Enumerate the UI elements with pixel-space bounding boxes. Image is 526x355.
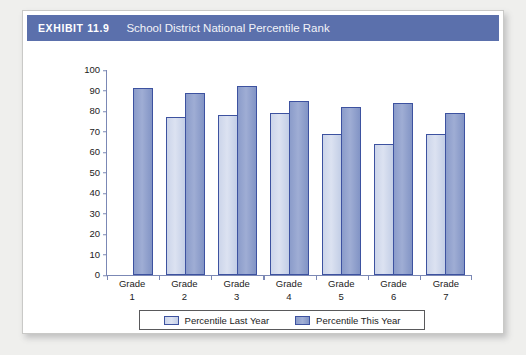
bar-this-year (341, 107, 361, 275)
x-axis-label-number: 5 (315, 291, 367, 304)
bar-last-year (322, 134, 342, 275)
exhibit-page: EXHIBIT 11.9 School District National Pe… (22, 10, 504, 334)
x-axis-label-word: Grade (263, 278, 315, 291)
plot-area: 1009080706050403020100 (106, 70, 472, 276)
bar-this-year (237, 86, 257, 275)
y-axis-tick: 80 (89, 106, 107, 116)
bar-last-year (218, 115, 238, 275)
legend-swatch-last-year (164, 316, 179, 325)
y-axis-tick: 70 (89, 127, 107, 137)
x-axis-label-word: Grade (158, 278, 210, 291)
x-axis-label: Grade5 (315, 278, 367, 303)
x-axis-label: Grade6 (367, 278, 419, 303)
bar-last-year (426, 134, 446, 275)
x-axis-label-number: 4 (263, 291, 315, 304)
legend-label: Percentile This Year (316, 315, 400, 326)
chart-legend: Percentile Last YearPercentile This Year (139, 310, 425, 330)
y-axis-tick: 40 (89, 188, 107, 198)
x-axis-label: Grade4 (263, 278, 315, 303)
bar-last-year (166, 117, 186, 275)
x-axis-label-number: 2 (158, 291, 210, 304)
x-axis-label: Grade1 (106, 278, 158, 303)
bar-this-year (133, 88, 153, 275)
x-axis-labels: Grade1Grade2Grade3Grade4Grade5Grade6Grad… (106, 278, 472, 303)
y-axis-tick: 100 (84, 65, 107, 75)
bar-this-year (445, 113, 465, 275)
chart-frame: 1009080706050403020100 Grade1Grade2Grade… (27, 45, 501, 328)
exhibit-header-band: EXHIBIT 11.9 School District National Pe… (27, 15, 499, 41)
legend-swatch-this-year (295, 316, 310, 325)
bar-group (420, 70, 472, 275)
bar-group (159, 70, 211, 275)
x-axis-label-number: 1 (106, 291, 158, 304)
bar-group (107, 70, 159, 275)
x-axis-label-word: Grade (420, 278, 472, 291)
bar-group (211, 70, 263, 275)
x-axis-label-word: Grade (106, 278, 158, 291)
y-axis-tick: 60 (89, 147, 107, 157)
y-axis-tick: 90 (89, 86, 107, 96)
x-axis-label-word: Grade (367, 278, 419, 291)
bars-layer (107, 70, 472, 275)
x-axis-label-number: 3 (211, 291, 263, 304)
bar-last-year (374, 144, 394, 275)
legend-label: Percentile Last Year (185, 315, 270, 326)
y-axis-tick: 30 (89, 209, 107, 219)
x-axis-label-number: 7 (420, 291, 472, 304)
bar-last-year (270, 113, 290, 275)
y-axis-tick: 50 (89, 168, 107, 178)
y-axis-tick: 10 (89, 250, 107, 260)
y-axis-tick: 20 (89, 229, 107, 239)
bar-group (316, 70, 368, 275)
legend-item: Percentile This Year (295, 315, 400, 326)
exhibit-title: School District National Percentile Rank (126, 22, 329, 34)
bar-this-year (393, 103, 413, 275)
x-axis-label-word: Grade (211, 278, 263, 291)
x-axis-label: Grade7 (420, 278, 472, 303)
bar-group (368, 70, 420, 275)
x-axis-label-number: 6 (367, 291, 419, 304)
legend-item: Percentile Last Year (164, 315, 270, 326)
bar-this-year (289, 101, 309, 275)
x-axis-label-word: Grade (315, 278, 367, 291)
x-axis-label: Grade2 (158, 278, 210, 303)
bar-this-year (185, 93, 205, 275)
x-axis-label: Grade3 (211, 278, 263, 303)
exhibit-number: EXHIBIT 11.9 (38, 22, 109, 34)
bar-group (263, 70, 315, 275)
